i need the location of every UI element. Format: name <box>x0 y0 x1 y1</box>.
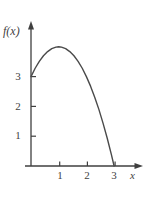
y-axis-label: f(x) <box>3 25 20 37</box>
y-tick-label-1: 1 <box>12 130 24 141</box>
x-axis-label: x <box>130 169 135 181</box>
x-axis-arrowhead <box>135 163 144 169</box>
x-tick-label-3: 3 <box>108 170 120 181</box>
y-axis-arrowhead <box>28 21 34 30</box>
function-curve <box>31 47 114 166</box>
figure-container: f(x) x 3 2 1 1 2 3 <box>0 0 153 198</box>
x-tick-label-1: 1 <box>54 170 66 181</box>
y-tick-label-3: 3 <box>12 71 24 82</box>
y-tick-label-2: 2 <box>12 101 24 112</box>
x-tick-label-2: 2 <box>81 170 93 181</box>
